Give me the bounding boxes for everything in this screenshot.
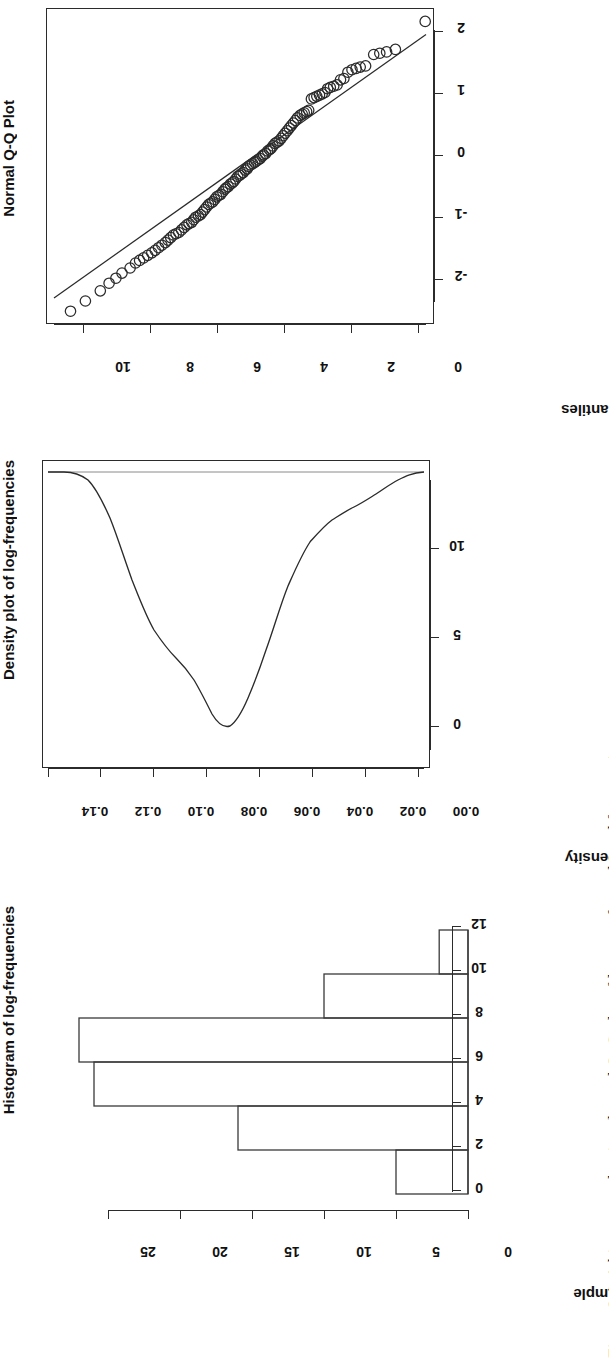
histogram-y-tick-label: 0	[488, 1244, 528, 1260]
density-x-tick-label: 0	[444, 716, 470, 732]
qq-x-tick	[434, 155, 443, 156]
qq-x-tick-label: -2	[448, 268, 474, 284]
histogram-x-tick-label: 4	[466, 1092, 492, 1108]
qq-y-tick-label: 6	[237, 359, 277, 375]
histogram-x-tick-label: 10	[466, 960, 492, 976]
qq-y-tick-label: 0	[438, 359, 478, 375]
qq-x-tick-label: 1	[448, 82, 474, 98]
histogram-y-tick-label: 5	[416, 1244, 456, 1260]
qq-y-tick-label: 8	[170, 359, 210, 375]
qq-x-axis-label: Theoretical Quantiles	[480, 18, 609, 171]
histogram-x-tick-label: 2	[466, 1136, 492, 1152]
density-y-tick-label: 0.02	[389, 804, 437, 819]
density-y-tick-label: 0.08	[230, 804, 278, 819]
histogram-bar	[79, 1018, 468, 1062]
histogram-data-layer	[40, 910, 480, 1210]
density-y-axis-label: Density	[422, 850, 609, 867]
density-y-tick	[259, 768, 260, 777]
qq-plot-title: Normal Q-Q Plot	[0, 100, 44, 217]
density-x-axis-line	[430, 480, 431, 750]
qq-y-tick-label: 10	[103, 359, 143, 375]
qq-x-tick	[434, 93, 443, 94]
qq-y-tick	[150, 324, 151, 333]
histogram-x-tick	[452, 926, 461, 927]
histogram-y-tick	[396, 1210, 397, 1219]
qq-y-axis-line	[54, 324, 426, 325]
density-y-tick	[312, 768, 313, 777]
density-y-axis: 0.00 0.02 0.04 0.06 0.08 0.10 0.12 0.14 …	[42, 768, 430, 878]
histogram-x-tick-label: 8	[466, 1004, 492, 1020]
histogram-x-tick	[452, 1058, 461, 1059]
density-curve	[48, 472, 424, 727]
density-x-tick	[430, 637, 439, 638]
histogram-bar	[324, 974, 468, 1018]
qq-y-tick	[217, 324, 218, 333]
qq-x-tick-label: 2	[448, 20, 474, 36]
histogram-y-tick	[252, 1210, 253, 1219]
histogram-x-tick-label: 12	[466, 916, 492, 932]
density-y-tick	[206, 768, 207, 777]
qq-plot-data-layer	[46, 8, 434, 324]
histogram-y-tick	[180, 1210, 181, 1219]
qq-y-axis-label: Sample Quantiles	[434, 402, 609, 419]
density-plot-data-layer	[42, 460, 430, 768]
histogram-y-tick	[108, 1210, 109, 1219]
histogram-x-tick	[452, 1014, 461, 1015]
qq-y-tick	[284, 324, 285, 333]
histogram-y-tick-label: 25	[128, 1244, 168, 1260]
density-y-axis-line	[48, 768, 424, 769]
density-y-tick-label: 0.10	[177, 804, 225, 819]
density-y-tick	[365, 768, 366, 777]
density-x-tick	[430, 548, 439, 549]
density-y-tick-label: 0.04	[336, 804, 384, 819]
qq-y-tick-label: 2	[371, 359, 411, 375]
qq-reference-line	[54, 34, 426, 298]
histogram-y-tick-label: 20	[200, 1244, 240, 1260]
density-x-axis-label-line2: frequency in a corpus	[496, 530, 609, 686]
figure-page: Normal Q-Q Plot 0 2 4 6 8 10 Sample Quan…	[0, 0, 609, 1364]
density-x-axis: 0 5 10 Log-transformed word frequency in…	[430, 460, 560, 768]
density-plot-title: Density plot of log-frequencies	[0, 460, 40, 680]
histogram-y-axis-label: Relative frequency in the sample	[480, 1286, 609, 1303]
histogram-x-tick	[452, 1146, 461, 1147]
density-x-tick	[430, 726, 439, 727]
histogram-y-tick-label: 10	[344, 1244, 384, 1260]
histogram-y-tick	[324, 1210, 325, 1219]
histogram-title: Histogram of log-frequencies	[0, 906, 38, 1114]
density-x-tick-label: 5	[444, 627, 470, 643]
density-y-tick	[153, 768, 154, 777]
histogram-x-tick	[452, 1102, 461, 1103]
histogram-x-tick	[452, 970, 461, 971]
density-x-tick-label: 10	[444, 538, 470, 554]
panel-normal-qq-plot: Normal Q-Q Plot 0 2 4 6 8 10 Sample Quan…	[0, 0, 560, 410]
density-y-tick-label: 0.14	[71, 804, 119, 819]
histogram-x-axis-label: Log-transformed word frequency	[496, 918, 609, 1154]
histogram-bar	[94, 1062, 468, 1106]
qq-sample-quantiles-axis: 0 2 4 6 8 10 Sample Quantiles	[46, 324, 434, 410]
histogram-x-tick-label: 0	[466, 1180, 492, 1196]
histogram-y-tick-label: 15	[272, 1244, 312, 1260]
qq-y-tick	[351, 324, 352, 333]
histogram-y-tick	[468, 1210, 469, 1219]
qq-x-tick-label: 0	[448, 144, 474, 160]
qq-x-tick-label: -1	[448, 206, 474, 222]
qq-x-tick	[434, 31, 443, 32]
density-y-tick-label: 0.06	[283, 804, 331, 819]
qq-y-tick	[83, 324, 84, 333]
panel-histogram: Histogram of log-frequencies 0 5 10 15 2…	[0, 890, 560, 1310]
density-y-tick-label: 0.12	[124, 804, 172, 819]
panel-density-plot: Density plot of log-frequencies 0.00 0.0…	[0, 420, 560, 890]
qq-x-tick	[434, 217, 443, 218]
histogram-y-axis-line	[108, 1210, 468, 1211]
density-y-tick-label: 0.00	[442, 804, 490, 819]
histogram-bar	[238, 1106, 468, 1150]
density-y-tick	[418, 768, 419, 777]
histogram-x-tick-label: 6	[466, 1048, 492, 1064]
qq-y-tick-label: 4	[304, 359, 344, 375]
density-y-tick	[48, 768, 49, 777]
qq-x-axis-line	[434, 30, 435, 302]
qq-point-cloud	[65, 16, 430, 316]
histogram-y-axis: 0 5 10 15 20 25 Relative frequency in th…	[40, 1210, 480, 1310]
qq-theoretical-quantiles-axis: -2 -1 0 1 2 Theoretical Quantiles	[434, 8, 560, 324]
qq-y-tick	[418, 324, 419, 333]
